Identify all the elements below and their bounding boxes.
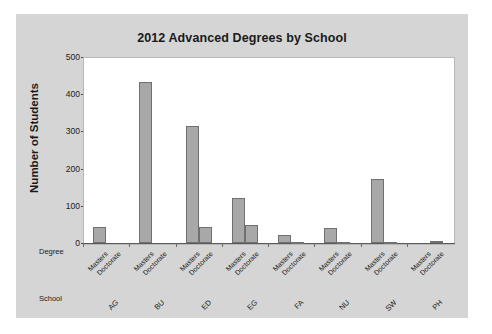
bar [384, 242, 397, 244]
bar [430, 241, 443, 243]
school-tick-label: SW [383, 298, 398, 313]
bar [139, 82, 152, 243]
bar [278, 235, 291, 243]
school-tick-label: BU [153, 298, 167, 312]
y-tick-label: 400 [46, 89, 80, 99]
x-axis-line [83, 243, 455, 244]
y-axis-label: Number of Students [28, 58, 40, 218]
x-group-tick [129, 243, 130, 247]
y-tick-label: 100 [46, 201, 80, 211]
bar [186, 126, 199, 243]
bar [291, 242, 304, 244]
school-tick-label: EG [245, 298, 259, 312]
x-group-tick [314, 243, 315, 247]
bar [337, 242, 350, 244]
bar [371, 179, 384, 243]
bar [232, 198, 245, 243]
school-tick-label: FA [293, 298, 306, 311]
school-tick-label: AG [106, 298, 120, 312]
x-group-tick [222, 243, 223, 247]
school-tick-label: PH [431, 298, 445, 312]
y-tick-label: 300 [46, 126, 80, 136]
x-group-tick [176, 243, 177, 247]
chart-title: 2012 Advanced Degrees by School [16, 31, 468, 45]
y-axis: 0100200300400500 [43, 57, 80, 243]
y-tick-label: 500 [46, 52, 80, 62]
bar [199, 227, 212, 243]
x-group-tick [361, 243, 362, 247]
x-group-tick [268, 243, 269, 247]
bar [245, 225, 258, 243]
x-group-tick [83, 243, 84, 247]
bar [93, 227, 106, 243]
school-tick-label: NU [338, 298, 352, 312]
chart-figure: 2012 Advanced Degrees by School Number o… [16, 14, 468, 318]
bar [324, 228, 337, 243]
y-tick-label: 200 [46, 164, 80, 174]
x-group-tick [407, 243, 408, 247]
degree-row-header: Degree [39, 247, 64, 256]
school-tick-label: ED [199, 298, 213, 312]
school-row-header: School [39, 294, 62, 303]
